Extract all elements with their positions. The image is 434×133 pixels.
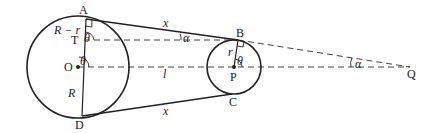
bottom-tangent-line	[82, 94, 232, 116]
label-C: C	[229, 95, 237, 109]
label-l: l	[163, 67, 167, 81]
label-A: A	[79, 3, 88, 17]
top-tangent-line	[86, 19, 238, 40]
label-D: D	[75, 118, 84, 132]
center-P-dot	[232, 65, 236, 69]
label-x-bottom: x	[162, 104, 169, 118]
label-Q: Q	[407, 67, 416, 81]
label-B: B	[236, 26, 244, 40]
label-theta-P: θ	[237, 54, 243, 68]
label-theta-T: θ	[84, 31, 90, 45]
label-R: R	[67, 86, 76, 100]
label-P: P	[230, 70, 237, 84]
label-theta-O: θ	[80, 54, 86, 68]
label-R-minus-r: R − r	[53, 23, 80, 37]
alpha-arc-B	[180, 34, 181, 40]
label-x-top: x	[162, 16, 169, 30]
label-alpha-Q: α	[355, 57, 362, 71]
tangent-extension-dashed	[238, 40, 410, 67]
belt-pulley-diagram: A T O D B P C Q x x l R − r R r θ θ θ α …	[0, 0, 434, 133]
label-O: O	[64, 60, 73, 74]
right-angle-A	[86, 20, 92, 27]
label-r: r	[228, 45, 233, 59]
alpha-arc-Q	[351, 58, 352, 67]
label-alpha-B: α	[183, 31, 190, 45]
